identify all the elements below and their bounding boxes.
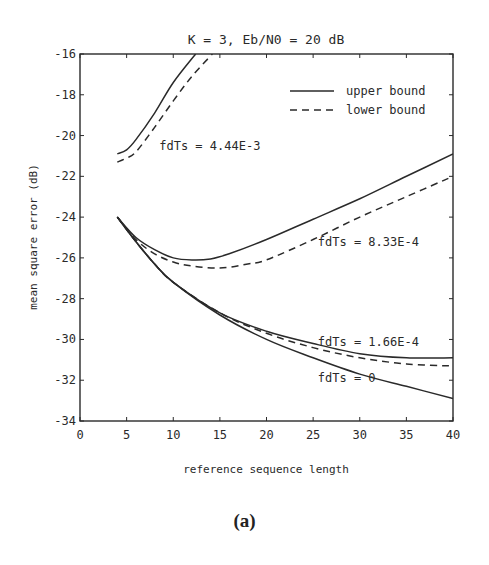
figure-caption: (a) <box>0 510 489 532</box>
curve-annotation: fdTs = 4.44E-3 <box>159 139 260 153</box>
chart-title: K = 3, Eb/N0 = 20 dB <box>188 32 345 47</box>
x-tick-label: 25 <box>306 428 320 442</box>
y-tick-label: -28 <box>54 292 76 306</box>
curve-annotation: fdTs = 1.66E-4 <box>318 335 419 349</box>
legend-label: upper bound <box>346 84 425 98</box>
y-tick-label: -30 <box>54 332 76 346</box>
x-tick-label: 40 <box>446 428 460 442</box>
y-tick-label: -32 <box>54 373 76 387</box>
y-tick-label: -18 <box>54 88 76 102</box>
legend-label: lower bound <box>346 103 425 117</box>
y-tick-label: -16 <box>54 47 76 61</box>
x-tick-label: 10 <box>166 428 180 442</box>
y-tick-label: -24 <box>54 210 76 224</box>
curve-annotation: fdTs = 0 <box>318 371 376 385</box>
y-tick-label: -26 <box>54 251 76 265</box>
series-line <box>117 176 453 268</box>
legend: upper boundlower bound <box>290 84 425 117</box>
x-tick-label: 0 <box>76 428 83 442</box>
y-tick-label: -22 <box>54 169 76 183</box>
y-tick-label: -34 <box>54 414 76 428</box>
x-tick-label: 5 <box>123 428 130 442</box>
y-axis-label: mean square error (dB) <box>27 164 40 310</box>
x-tick-label: 20 <box>259 428 273 442</box>
x-axis-label: reference sequence length <box>183 463 349 476</box>
x-tick-label: 30 <box>353 428 367 442</box>
curve-annotation: fdTs = 8.33E-4 <box>318 235 419 249</box>
y-tick-label: -20 <box>54 129 76 143</box>
x-tick-label: 15 <box>213 428 227 442</box>
x-tick-label: 35 <box>399 428 413 442</box>
mse-chart: K = 3, Eb/N0 = 20 dB 0510152025303540-16… <box>0 0 489 500</box>
